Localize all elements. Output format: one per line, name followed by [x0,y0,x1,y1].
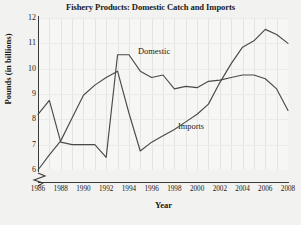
chart-container: Fishery Products: Domestic Catch and Imp… [0,0,301,225]
data-lines [0,0,301,225]
line-domestic [38,55,288,158]
y-axis-break-icon [34,173,45,186]
line-imports [38,29,288,170]
